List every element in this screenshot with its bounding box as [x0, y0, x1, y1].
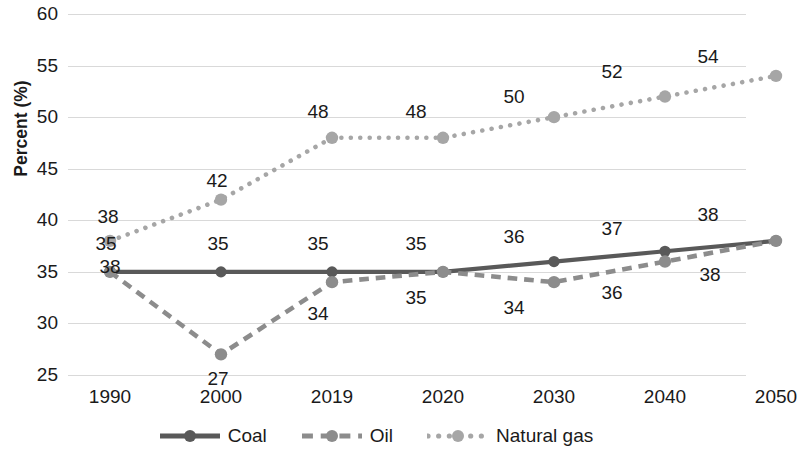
series-oil [104, 235, 782, 361]
legend-item-coal[interactable]: Coal [159, 425, 267, 447]
y-axis-tick-55: 55 [14, 55, 58, 77]
chart-legend: CoalOilNatural gas [0, 425, 752, 447]
data-label: 35 [207, 234, 228, 253]
data-point-marker [215, 193, 227, 205]
data-point-marker [326, 132, 338, 144]
x-axis-tick-2040: 2040 [644, 386, 686, 408]
x-axis-tick-1990: 1990 [89, 386, 131, 408]
data-point-marker [548, 111, 560, 123]
data-point-marker [659, 255, 671, 267]
data-point-marker [548, 276, 560, 288]
x-axis-tick-2019: 2019 [311, 386, 353, 408]
data-point-marker [437, 266, 449, 278]
x-axis-tick-2020: 2020 [422, 386, 464, 408]
data-label: 42 [206, 171, 227, 190]
legend-label-oil: Oil [370, 425, 393, 447]
data-point-marker [770, 235, 782, 247]
data-point-marker [659, 90, 671, 102]
data-label: 35 [307, 234, 328, 253]
legend-item-oil[interactable]: Oil [301, 425, 393, 447]
data-label: 38 [99, 257, 120, 276]
y-axis-tick-50: 50 [14, 106, 58, 128]
legend-swatch-oil [301, 428, 363, 444]
data-point-marker [215, 266, 226, 277]
data-point-marker [770, 70, 782, 82]
legend-item-natural-gas[interactable]: Natural gas [427, 425, 593, 447]
y-axis-tick-labels: 6055504540353025 [12, 0, 58, 455]
data-point-marker [659, 246, 670, 257]
y-axis-tick-35: 35 [14, 261, 58, 283]
data-label: 48 [307, 102, 328, 121]
data-label: 34 [503, 298, 524, 317]
data-point-marker [437, 132, 449, 144]
plot-area: 3835384235274835344835355036345237365438… [68, 0, 746, 455]
data-label: 50 [503, 87, 524, 106]
data-point-marker [326, 266, 337, 277]
data-point-marker [548, 256, 559, 267]
legend-label-natural-gas: Natural gas [496, 425, 593, 447]
data-label: 36 [601, 283, 622, 302]
legend-label-coal: Coal [228, 425, 267, 447]
data-label: 54 [697, 47, 718, 66]
data-label: 35 [405, 288, 426, 307]
data-label: 34 [307, 304, 328, 323]
data-point-marker [215, 348, 227, 360]
y-axis-tick-45: 45 [14, 158, 58, 180]
x-axis-tick-2000: 2000 [200, 386, 242, 408]
x-axis-tick-2030: 2030 [533, 386, 575, 408]
legend-swatch-natural-gas [427, 428, 489, 444]
data-label: 27 [207, 369, 228, 388]
series-line-natural-gas [110, 76, 776, 241]
data-label: 35 [405, 234, 426, 253]
data-label: 38 [699, 265, 720, 284]
data-label: 48 [405, 102, 426, 121]
data-label: 35 [95, 234, 116, 253]
series-line-oil [110, 241, 776, 354]
y-axis-tick-30: 30 [14, 312, 58, 334]
data-label: 37 [601, 219, 622, 238]
data-label: 52 [601, 62, 622, 81]
data-label: 38 [97, 207, 118, 226]
x-axis-tick-2050: 2050 [755, 386, 797, 408]
y-axis-tick-60: 60 [14, 3, 58, 25]
y-axis-tick-40: 40 [14, 209, 58, 231]
data-label: 38 [697, 205, 718, 224]
series-natural-gas [104, 70, 782, 247]
legend-swatch-coal [159, 428, 221, 444]
data-label: 36 [503, 227, 524, 246]
data-point-marker [326, 276, 338, 288]
y-axis-tick-25: 25 [14, 364, 58, 386]
